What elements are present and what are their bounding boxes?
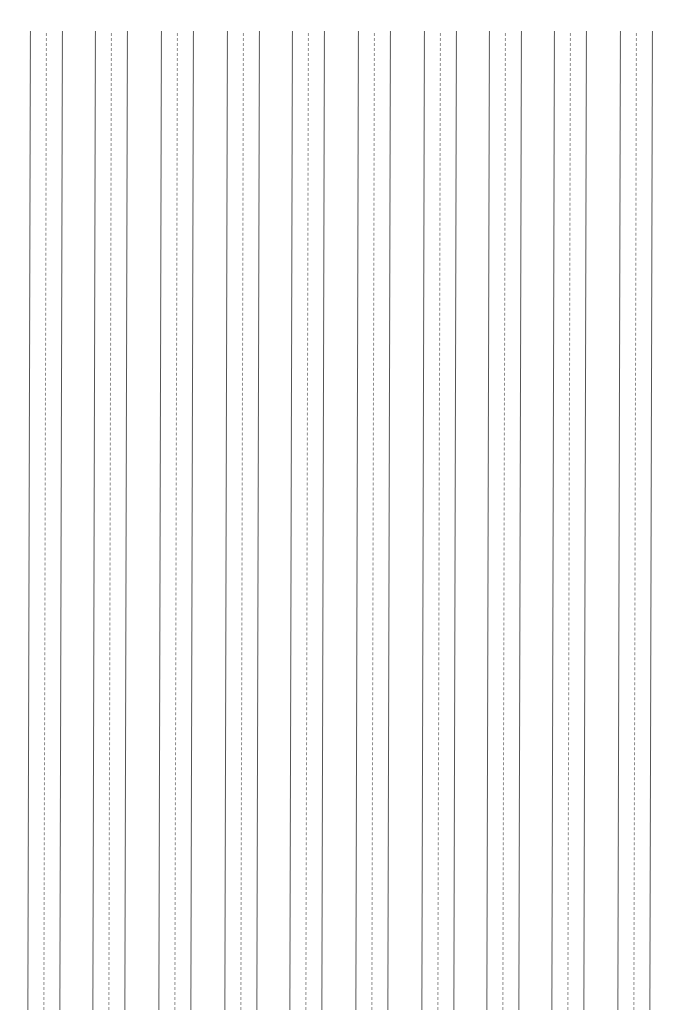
ruling-group: [224, 31, 260, 1010]
guide-line-solid: [649, 31, 653, 1010]
guide-line-solid: [551, 31, 555, 1010]
guide-line-dashed: [108, 33, 112, 1010]
guide-line-dashed: [305, 33, 309, 1010]
ruling-group: [421, 31, 457, 1010]
ruling-group: [92, 31, 128, 1010]
guide-line-solid: [387, 31, 391, 1010]
guide-line-solid: [92, 31, 96, 1010]
guide-line-solid: [583, 31, 587, 1010]
ruling-group: [486, 31, 522, 1010]
guide-line-solid: [486, 31, 490, 1010]
guide-line-solid: [617, 31, 621, 1010]
ruling-group: [27, 31, 63, 1010]
guide-line-dashed: [371, 33, 375, 1010]
guide-line-solid: [321, 31, 325, 1010]
guide-line-solid: [224, 31, 228, 1010]
guide-line-solid: [27, 31, 31, 1010]
guide-line-dashed: [633, 33, 637, 1010]
guide-line-dashed: [43, 33, 47, 1010]
guide-line-dashed: [567, 33, 571, 1010]
ruling-group: [355, 31, 391, 1010]
guide-line-dashed: [240, 33, 244, 1010]
guide-line-dashed: [502, 33, 506, 1010]
guide-line-solid: [355, 31, 359, 1010]
guide-line-solid: [124, 31, 128, 1010]
guide-line-dashed: [174, 33, 178, 1010]
guide-line-dashed: [437, 33, 441, 1010]
guide-line-solid: [190, 31, 194, 1010]
ruled-paper: [0, 0, 682, 1010]
guide-line-solid: [158, 31, 162, 1010]
guide-line-solid: [518, 31, 522, 1010]
ruling-group: [551, 31, 587, 1010]
ruling-group: [158, 31, 194, 1010]
guide-line-solid: [453, 31, 457, 1010]
guide-line-solid: [256, 31, 260, 1010]
ruling-group: [617, 31, 653, 1010]
guide-line-solid: [289, 31, 293, 1010]
guide-line-solid: [421, 31, 425, 1010]
ruling-group: [289, 31, 325, 1010]
guide-line-solid: [59, 31, 63, 1010]
